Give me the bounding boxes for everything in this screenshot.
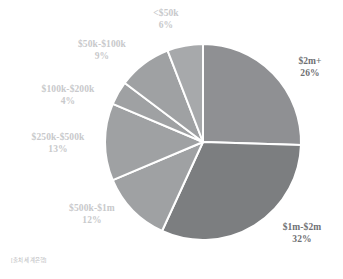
pie-chart-canvas xyxy=(0,0,343,279)
pie-slice-group xyxy=(105,44,301,240)
source-note: [출처 세계은행] xyxy=(11,256,46,264)
pie-slice xyxy=(203,44,301,145)
pie-chart-figure: $2m+ 26% $1m-$2m 32% $500k-$1m 12% $250k… xyxy=(0,0,343,279)
